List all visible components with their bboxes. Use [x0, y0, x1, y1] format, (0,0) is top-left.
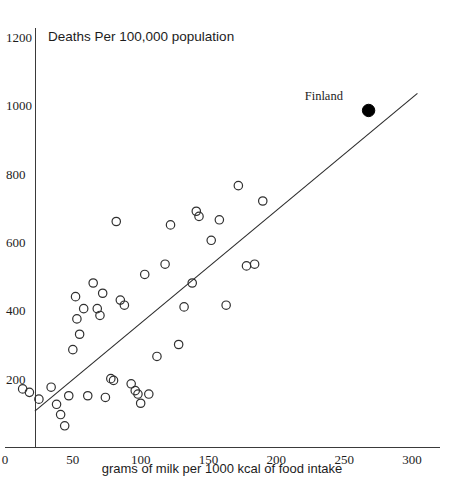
regression-line [35, 93, 418, 411]
x-tick-label: 0 [2, 452, 9, 467]
x-tick-label: 300 [402, 452, 422, 467]
y-tick-label: 400 [6, 303, 26, 318]
data-point [141, 270, 149, 278]
data-point [89, 279, 97, 287]
y-tick-label: 800 [6, 167, 26, 182]
data-point [250, 260, 258, 268]
data-point [84, 392, 92, 400]
data-point [180, 303, 188, 311]
data-point [101, 393, 109, 401]
y-tick-label: 1200 [6, 30, 32, 45]
trend-line-group [35, 93, 418, 411]
data-point [65, 392, 73, 400]
data-point [98, 289, 106, 297]
data-point [222, 301, 230, 309]
data-point [47, 383, 55, 391]
data-point [192, 207, 200, 215]
data-point [145, 390, 153, 398]
data-point [195, 212, 203, 220]
data-point [136, 399, 144, 407]
chart-title: Deaths Per 100,000 population [48, 29, 234, 44]
y-tick-labels: 20040060080010001200 [6, 30, 32, 387]
data-point [25, 388, 33, 396]
data-point [56, 410, 64, 418]
data-point [259, 197, 267, 205]
data-point [52, 400, 60, 408]
chart-page: 20040060080010001200 050100150200250300 … [0, 0, 453, 490]
data-point-finland [362, 104, 374, 116]
data-point [109, 376, 117, 384]
data-point [73, 315, 81, 323]
scatter-plot: 20040060080010001200 050100150200250300 … [0, 0, 453, 490]
data-point [161, 260, 169, 268]
data-point [79, 304, 87, 312]
y-tick-label: 600 [6, 235, 26, 250]
annotations-group: Finland [305, 89, 344, 103]
data-points-group [18, 104, 374, 430]
data-point [60, 422, 68, 430]
axes-group [5, 28, 440, 448]
data-point [112, 217, 120, 225]
x-tick-label: 50 [66, 452, 79, 467]
data-point [166, 221, 174, 229]
data-point [69, 345, 77, 353]
data-point [75, 330, 83, 338]
annotation-finland: Finland [305, 89, 344, 103]
data-point [242, 262, 250, 270]
data-point [207, 236, 215, 244]
y-tick-label: 1000 [6, 98, 32, 113]
data-point [153, 352, 161, 360]
data-point [71, 292, 79, 300]
data-point [234, 181, 242, 189]
x-axis-title: grams of milk per 1000 kcal of food inta… [102, 461, 343, 476]
data-point [174, 340, 182, 348]
data-point [215, 216, 223, 224]
